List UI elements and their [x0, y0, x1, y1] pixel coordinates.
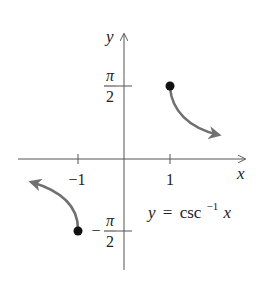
x-tick-label-1: 1: [166, 171, 174, 188]
svg-text:−: −: [91, 222, 100, 239]
chart-canvas: y x −1 1 π 2 − π 2 y = csc −1 x: [0, 0, 266, 283]
endpoint-dot-left: [74, 227, 83, 236]
curve-right-branch: [170, 88, 219, 135]
svg-text:2: 2: [106, 88, 114, 105]
x-axis-label: x: [236, 164, 245, 183]
y-tick-label-pi-over-2: π 2: [104, 67, 116, 105]
svg-text:π: π: [106, 212, 115, 229]
curve-left-branch: [31, 182, 78, 229]
svg-text:2: 2: [106, 233, 114, 250]
y-axis-label: y: [104, 27, 114, 46]
y-tick-label-neg-pi-over-2: − π 2: [91, 212, 116, 250]
x-tick-label-neg1: −1: [68, 171, 85, 188]
function-label: y = csc −1 x: [146, 195, 232, 222]
svg-text:y = csc −1: y = csc −1 x: [146, 195, 232, 222]
svg-text:π: π: [106, 67, 115, 84]
endpoint-dot-right: [166, 82, 175, 91]
